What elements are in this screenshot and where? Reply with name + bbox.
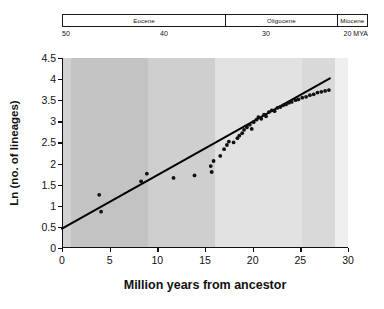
scatter-point [273,109,277,113]
scatter-point [193,173,197,177]
scatter-point [264,114,268,118]
x-axis-title: Million years from ancestor [62,278,348,292]
scatter-points [97,88,331,213]
x-tick-label: 25 [294,255,306,266]
y-tick-label: 4 [50,74,56,85]
mya-tick-label: 40 [160,30,168,37]
scatter-point [327,88,331,92]
scatter-point [259,117,263,121]
y-tick-label: 3.5 [41,95,56,106]
scatter-point [248,123,252,127]
scatter-point [323,89,327,93]
y-tick-label: 0.5 [41,222,56,233]
scatter-point [297,97,301,101]
x-tick-mark [62,248,63,252]
scatter-point [300,96,304,100]
mya-scale: 50403020 MYA [62,30,368,42]
scatter-point [225,143,229,147]
y-axis-title: Ln (no. of lineages) [6,58,22,248]
scatter-point [222,147,226,151]
x-tick-mark [300,248,301,252]
y-tick-label: 2.5 [41,137,56,148]
scatter-point [252,120,256,124]
scatter-point [240,131,244,135]
scatter-point [172,176,176,180]
y-tick-label: 3 [50,116,56,127]
x-tick-mark [157,248,158,252]
mya-tick-label: 30 [262,30,270,37]
y-tick-label: 4.5 [41,53,56,64]
scatter-point [319,90,323,94]
scatter-point [218,154,222,158]
scatter-point [242,128,246,132]
x-tick-label: 10 [151,255,163,266]
geologic-epoch-bar: EoceneOligoceneMiocene [62,14,368,27]
y-axis-title-text: Ln (no. of lineages) [8,100,20,205]
epoch-cell-eocene: Eocene [63,15,225,26]
scatter-point [250,127,254,131]
epoch-cell-oligocene: Oligocene [225,15,336,26]
scatter-point [210,170,214,174]
scatter-point [139,179,143,183]
x-tick-label: 0 [59,255,65,266]
y-tick-label: 1 [50,201,56,212]
scatter-point [97,193,101,197]
x-tick-label: 15 [199,255,211,266]
y-tick-label: 0 [50,243,56,254]
scatter-point [316,91,320,95]
scatter-point [99,210,103,214]
scatter-point [145,172,149,176]
mya-tick-label: 20 MYA [344,30,368,37]
mya-tick-label: 50 [62,30,70,37]
scatter-point [227,140,231,144]
plot-area: 00.511.522.533.544.5 051015202530 [62,58,348,248]
scatter-point [308,93,312,97]
scatter-point [237,134,241,138]
x-tick-mark [110,248,111,252]
x-tick-label: 5 [107,255,113,266]
x-tick-mark [253,248,254,252]
scatter-point [212,159,216,163]
scatter-point [304,95,308,99]
y-tick-label: 1.5 [41,179,56,190]
scatter-point [209,164,213,168]
scatter-point [245,125,249,129]
x-tick-label: 30 [342,255,354,266]
data-layer [62,58,348,248]
x-tick-label: 20 [247,255,259,266]
epoch-cell-miocene: Miocene [337,15,367,26]
scatter-point [232,141,236,145]
y-tick-label: 2 [50,158,56,169]
scatter-point [312,92,316,96]
scatter-point [290,100,294,104]
x-tick-mark [205,248,206,252]
regression-line [62,78,330,228]
x-tick-mark [348,248,349,252]
